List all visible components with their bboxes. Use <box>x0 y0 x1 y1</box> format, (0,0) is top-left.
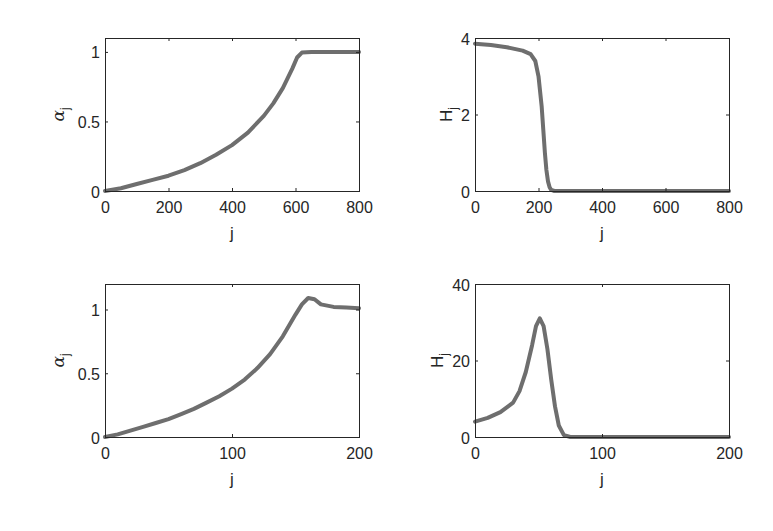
x-tick-label: 800 <box>716 199 743 216</box>
x-tick-label: 600 <box>283 199 310 216</box>
y-tick-label: 0 <box>461 184 470 201</box>
subplot-top-right-h: 0200400600800024jHj <box>437 31 743 244</box>
y-tick-label: 40 <box>452 277 470 294</box>
x-tick-label: 0 <box>471 445 480 462</box>
plot-area <box>105 38 359 191</box>
y-tick-label: 0 <box>91 430 100 447</box>
figure: 020040060080000.51jαj 0200400600800024jH… <box>0 0 773 531</box>
y-tick-label: 2 <box>461 107 470 124</box>
plot-area <box>475 284 729 437</box>
y-tick-label: 0.5 <box>78 114 100 131</box>
x-tick-label: 200 <box>346 445 373 462</box>
plot-area <box>475 38 729 191</box>
x-tick-label: 200 <box>716 445 743 462</box>
x-axis-label: j <box>599 470 604 489</box>
x-tick-label: 800 <box>346 199 373 216</box>
subplot-top-left-alpha: 020040060080000.51jαj <box>48 38 373 243</box>
x-tick-label: 600 <box>653 199 680 216</box>
x-tick-label: 100 <box>589 445 616 462</box>
y-tick-label: 0 <box>461 430 470 447</box>
subplot-bottom-right-h: 010020002040jHj <box>428 277 743 490</box>
x-tick-label: 100 <box>219 445 246 462</box>
y-tick-label: 20 <box>452 353 470 370</box>
y-tick-label: 0.5 <box>78 366 100 383</box>
x-tick-label: 400 <box>219 199 246 216</box>
x-tick-label: 200 <box>526 199 553 216</box>
x-axis-label: j <box>599 224 604 243</box>
x-axis-label: j <box>229 224 234 243</box>
x-tick-label: 400 <box>589 199 616 216</box>
y-tick-label: 1 <box>91 44 100 61</box>
x-tick-label: 0 <box>471 199 480 216</box>
y-tick-label: 0 <box>91 184 100 201</box>
x-tick-label: 0 <box>101 445 110 462</box>
y-axis-label: Hj <box>428 353 451 368</box>
subplot-bottom-left-alpha: 010020000.51jαj <box>48 284 373 489</box>
y-tick-label: 1 <box>91 302 100 319</box>
x-axis-label: j <box>229 470 234 489</box>
y-tick-label: 4 <box>461 31 470 48</box>
x-tick-label: 200 <box>156 199 183 216</box>
y-axis-label: αj <box>48 107 72 121</box>
x-tick-label: 0 <box>101 199 110 216</box>
y-axis-label: αj <box>48 353 72 367</box>
plot-area <box>105 284 359 437</box>
y-axis-label: Hj <box>437 107 460 122</box>
